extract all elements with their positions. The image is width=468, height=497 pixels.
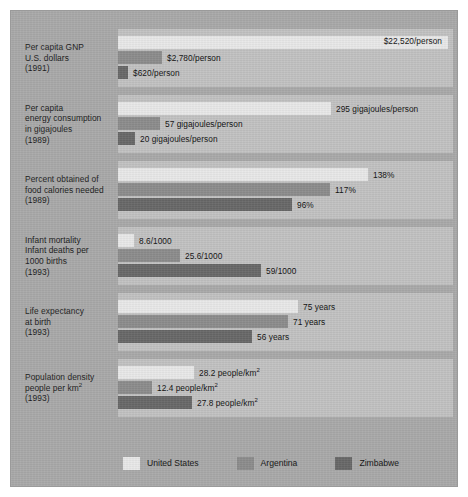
bar-population-density-zw bbox=[118, 396, 192, 409]
group-label-life-expectancy: Life expectancyat birth(1993) bbox=[25, 289, 117, 355]
chart-group-population-density: Population densitypeople per km2(1993)28… bbox=[11, 355, 457, 421]
bar-value-per-capita-gnp-us: $22,520/person bbox=[384, 36, 442, 46]
plot-area-per-capita-gnp: $22,520/person$2,780/person$620/person bbox=[118, 29, 453, 87]
plot-area-percent-food-calories-needed: 138%117%96% bbox=[118, 161, 453, 219]
bar-per-capita-energy-consumption-zw bbox=[118, 132, 135, 145]
chart-group-per-capita-energy-consumption: Per capitaenergy consumptionin gigajoule… bbox=[11, 91, 457, 157]
bar-per-capita-gnp-us: $22,520/person bbox=[118, 36, 448, 49]
bar-row-per-capita-energy-consumption-argentina: 57 gigajoules/person bbox=[118, 117, 243, 130]
bar-percent-food-calories-needed-us bbox=[118, 168, 368, 181]
bar-infant-mortality-zw bbox=[118, 264, 261, 277]
bar-value-per-capita-energy-consumption-ar: 57 gigajoules/person bbox=[165, 119, 243, 129]
chart-groups: Per capita GNPU.S. dollars(1991)$22,520/… bbox=[11, 11, 457, 486]
bar-value-life-expectancy-us: 75 years bbox=[303, 302, 335, 312]
plot-area-per-capita-energy-consumption: 295 gigajoules/person57 gigajoules/perso… bbox=[118, 95, 453, 153]
group-label-line: Infant deaths per bbox=[25, 245, 117, 256]
bar-per-capita-gnp-zw bbox=[118, 66, 128, 79]
bar-row-per-capita-gnp-united-states: $22,520/person bbox=[118, 36, 448, 49]
legend-label-us: United States bbox=[147, 458, 199, 468]
group-label-line: Life expectancy bbox=[25, 306, 117, 317]
group-label-line: at birth bbox=[25, 317, 117, 328]
chart-group-infant-mortality: Infant mortalityInfant deaths per1000 bi… bbox=[11, 223, 457, 289]
bar-value-infant-mortality-zw: 59/1000 bbox=[266, 266, 296, 276]
group-label-line: people per km2 bbox=[25, 383, 117, 394]
group-label-line: Per capita bbox=[25, 103, 117, 114]
bar-population-density-ar bbox=[118, 381, 152, 394]
group-label-line: food calories needed bbox=[25, 185, 117, 196]
bar-row-population-density-argentina: 12.4 people/km2 bbox=[118, 381, 218, 394]
bar-row-per-capita-energy-consumption-zimbabwe: 20 gigajoules/person bbox=[118, 132, 218, 145]
bar-value-percent-food-calories-needed-us: 138% bbox=[373, 170, 394, 180]
legend-item-ar[interactable]: Argentina bbox=[237, 457, 298, 470]
bar-percent-food-calories-needed-ar bbox=[118, 183, 330, 196]
bar-value-population-density-us: 28.2 people/km2 bbox=[199, 368, 260, 378]
group-label-line: energy consumption bbox=[25, 113, 117, 124]
chart-group-per-capita-gnp: Per capita GNPU.S. dollars(1991)$22,520/… bbox=[11, 25, 457, 91]
legend-swatch-ar bbox=[237, 457, 254, 470]
bar-percent-food-calories-needed-zw bbox=[118, 198, 292, 211]
bar-row-life-expectancy-argentina: 71 years bbox=[118, 315, 325, 328]
group-label-line: U.S. dollars bbox=[25, 53, 117, 64]
group-label-line: (1989) bbox=[25, 135, 117, 146]
bar-value-infant-mortality-ar: 25.6/1000 bbox=[185, 251, 222, 261]
bar-value-infant-mortality-us: 8.6/1000 bbox=[139, 236, 172, 246]
bar-value-life-expectancy-ar: 71 years bbox=[293, 317, 325, 327]
legend-label-zw: Zimbabwe bbox=[359, 458, 399, 468]
bar-value-population-density-ar: 12.4 people/km2 bbox=[157, 383, 218, 393]
bar-row-infant-mortality-zimbabwe: 59/1000 bbox=[118, 264, 296, 277]
bar-per-capita-energy-consumption-ar bbox=[118, 117, 160, 130]
group-label-line: Population density bbox=[25, 372, 117, 383]
bar-value-population-density-zw: 27.8 people/km2 bbox=[197, 398, 258, 408]
chart-group-life-expectancy: Life expectancyat birth(1993)75 years71 … bbox=[11, 289, 457, 355]
bar-row-percent-food-calories-needed-zimbabwe: 96% bbox=[118, 198, 314, 211]
bar-life-expectancy-us bbox=[118, 300, 298, 313]
chart-frame: Per capita GNPU.S. dollars(1991)$22,520/… bbox=[10, 10, 458, 487]
bar-value-percent-food-calories-needed-ar: 117% bbox=[335, 185, 356, 195]
group-label-line: 1000 births bbox=[25, 256, 117, 267]
group-label-line: in gigajoules bbox=[25, 124, 117, 135]
bar-infant-mortality-ar bbox=[118, 249, 180, 262]
bar-value-life-expectancy-zw: 56 years bbox=[257, 332, 289, 342]
bar-value-per-capita-energy-consumption-us: 295 gigajoules/person bbox=[336, 104, 418, 114]
bar-row-infant-mortality-argentina: 25.6/1000 bbox=[118, 249, 222, 262]
legend-item-zw[interactable]: Zimbabwe bbox=[335, 457, 399, 470]
legend-swatch-us bbox=[123, 457, 140, 470]
plot-area-infant-mortality: 8.6/100025.6/100059/1000 bbox=[118, 227, 453, 285]
bar-row-population-density-zimbabwe: 27.8 people/km2 bbox=[118, 396, 258, 409]
group-label-line: Percent obtained of bbox=[25, 174, 117, 185]
group-label-infant-mortality: Infant mortalityInfant deaths per1000 bi… bbox=[25, 223, 117, 289]
group-label-line: (1993) bbox=[25, 267, 117, 278]
bar-row-per-capita-gnp-argentina: $2,780/person bbox=[118, 51, 221, 64]
bar-population-density-us bbox=[118, 366, 194, 379]
group-label-line: (1993) bbox=[25, 327, 117, 338]
bar-row-infant-mortality-united-states: 8.6/1000 bbox=[118, 234, 172, 247]
group-label-line: (1993) bbox=[25, 393, 117, 404]
group-label-line: (1991) bbox=[25, 63, 117, 74]
bar-value-per-capita-gnp-zw: $620/person bbox=[133, 68, 180, 78]
group-label-percent-food-calories-needed: Percent obtained offood calories needed(… bbox=[25, 157, 117, 223]
chart-group-percent-food-calories-needed: Percent obtained offood calories needed(… bbox=[11, 157, 457, 223]
plot-area-life-expectancy: 75 years71 years56 years bbox=[118, 293, 453, 351]
bar-life-expectancy-zw bbox=[118, 330, 252, 343]
bar-row-life-expectancy-united-states: 75 years bbox=[118, 300, 335, 313]
bar-life-expectancy-ar bbox=[118, 315, 288, 328]
bar-row-per-capita-energy-consumption-united-states: 295 gigajoules/person bbox=[118, 102, 418, 115]
bar-value-per-capita-energy-consumption-zw: 20 gigajoules/person bbox=[140, 134, 218, 144]
bar-value-percent-food-calories-needed-zw: 96% bbox=[297, 200, 314, 210]
group-label-line: (1989) bbox=[25, 195, 117, 206]
chart-legend: United StatesArgentinaZimbabwe bbox=[11, 452, 457, 474]
bar-per-capita-gnp-ar bbox=[118, 51, 162, 64]
group-label-per-capita-gnp: Per capita GNPU.S. dollars(1991) bbox=[25, 25, 117, 91]
group-label-line: Per capita GNP bbox=[25, 42, 117, 53]
plot-area-population-density: 28.2 people/km212.4 people/km227.8 peopl… bbox=[118, 359, 453, 417]
group-label-population-density: Population densitypeople per km2(1993) bbox=[25, 355, 117, 421]
legend-label-ar: Argentina bbox=[261, 458, 298, 468]
legend-swatch-zw bbox=[335, 457, 352, 470]
legend-item-us[interactable]: United States bbox=[123, 457, 199, 470]
bar-row-percent-food-calories-needed-argentina: 117% bbox=[118, 183, 356, 196]
bar-value-per-capita-gnp-ar: $2,780/person bbox=[167, 53, 221, 63]
bar-per-capita-energy-consumption-us bbox=[118, 102, 331, 115]
bar-row-population-density-united-states: 28.2 people/km2 bbox=[118, 366, 260, 379]
group-label-per-capita-energy-consumption: Per capitaenergy consumptionin gigajoule… bbox=[25, 91, 117, 157]
bar-infant-mortality-us bbox=[118, 234, 134, 247]
